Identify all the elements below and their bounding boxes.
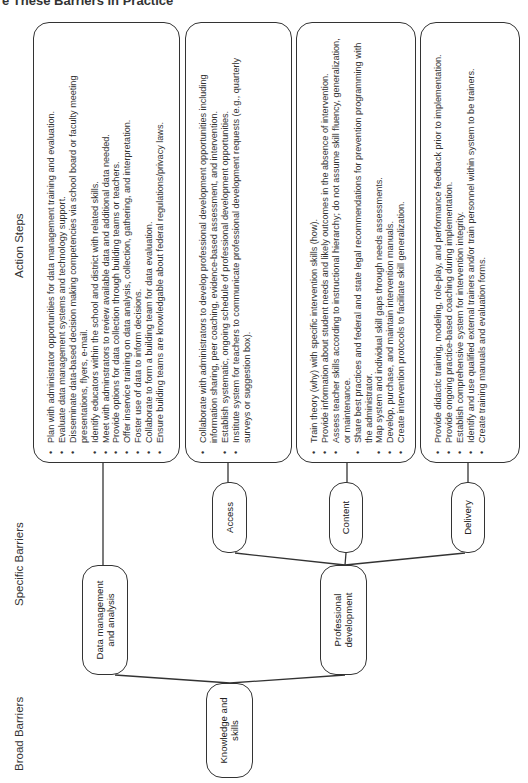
header-specific-barriers: Specific Barriers: [13, 522, 25, 606]
action-step: Disseminate data-based decision making c…: [68, 29, 90, 443]
action-step: Provide options for data collection thro…: [111, 29, 122, 443]
barrier-delivery: Delivery: [451, 482, 485, 553]
barrier-knowledge-and-skills: Knowledge and skills: [206, 683, 253, 778]
barrier-label: Content: [330, 483, 361, 552]
action-step: Establish systematic, ongoing schedule o…: [220, 29, 231, 443]
barrier-label: Delivery: [452, 483, 483, 552]
action-step: Ensure building teams are knowledgable a…: [155, 29, 166, 443]
action-step: Create training manuals and evaluation f…: [477, 29, 488, 443]
barrier-label: Access: [213, 483, 245, 552]
header-broad-barriers: Broad Barriers: [13, 697, 25, 771]
action-step: Share best practices and federal and sta…: [353, 29, 375, 443]
action-step: Identify educators within the school and…: [90, 29, 101, 443]
action-list-delivery: Provide didactic training, modeling, rol…: [429, 29, 488, 457]
action-step: Evaluate data management systems and tec…: [57, 29, 68, 443]
action-step: Develop, purchase, and maintain interven…: [385, 29, 396, 443]
action-step: Collaborate with administrators to devel…: [198, 29, 220, 443]
barrier-label: Data management and analysis: [83, 566, 126, 674]
action-step: Offer inservice training on data analysi…: [122, 29, 133, 443]
action-step: Foster use of data to inform decisions.: [133, 29, 144, 443]
action-step: Provide ongoing practice-based coaching …: [444, 29, 455, 443]
action-list-data-management: Plan with administrator opportunities fo…: [42, 29, 166, 457]
action-step: Create intervention protocols to facilit…: [396, 29, 407, 443]
action-step: Train theory (why) with specific interve…: [309, 29, 320, 443]
action-step: Collaborate to form a building team for …: [144, 29, 155, 443]
action-step: Provide information about student needs …: [320, 29, 331, 443]
action-step: Plan with administrator opportunities fo…: [46, 29, 57, 443]
barrier-label: Professional development: [321, 566, 365, 674]
action-box-access: Collaborate with administrators to devel…: [185, 22, 292, 463]
header-action-steps: Action Steps: [13, 213, 25, 278]
action-step: Meet with adminstrators to review availa…: [101, 29, 112, 443]
action-box-data-management: Plan with administrator opportunities fo…: [33, 22, 180, 463]
barrier-professional-development: Professional development: [320, 565, 367, 675]
barrier-content: Content: [329, 482, 363, 553]
barrier-label: Knowledge and skills: [207, 684, 251, 777]
action-step: Establish comprehensive system for inter…: [455, 29, 466, 443]
action-step: Assess teacher skills according to instr…: [331, 29, 353, 443]
action-box-delivery: Provide didactic training, modeling, rol…: [420, 22, 520, 463]
action-list-content: Train theory (why) with specific interve…: [305, 29, 407, 457]
action-box-content: Train theory (why) with specific interve…: [296, 22, 416, 463]
action-list-access: Collaborate with administrators to devel…: [194, 29, 253, 457]
action-step: Map system and individual skill gaps thr…: [374, 29, 385, 443]
action-step: Identify and use qualified external trai…: [466, 29, 477, 443]
barrier-data-management: Data management and analysis: [82, 565, 128, 675]
barrier-access: Access: [212, 482, 247, 553]
action-step: Institute system for teachers to communi…: [231, 29, 253, 443]
action-step: Provide didactic training, modeling, rol…: [433, 29, 444, 443]
